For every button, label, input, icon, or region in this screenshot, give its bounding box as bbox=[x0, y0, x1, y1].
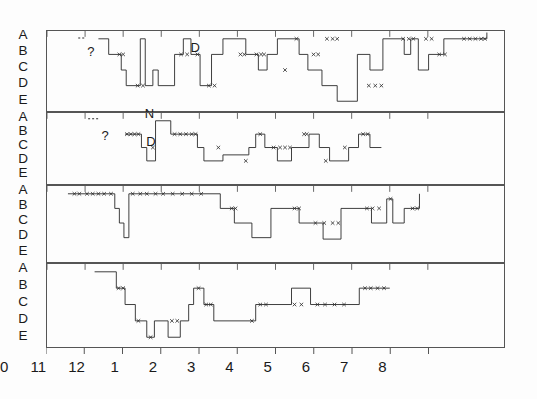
rem-marker bbox=[283, 68, 287, 72]
x-axis-tick-label: 11 bbox=[30, 358, 46, 375]
x-axis-tick-label: 6 bbox=[302, 358, 310, 375]
x-axis-tick-label: 4 bbox=[225, 358, 233, 375]
hypnogram-figure: ABCDE?NDABCDE?DABCDEABCDE10111212345678 bbox=[0, 0, 537, 399]
rem-marker bbox=[312, 53, 316, 57]
hypnogram-trace bbox=[95, 272, 390, 337]
rem-marker bbox=[239, 53, 243, 57]
y-axis-labels-panel-3: ABCDE bbox=[0, 183, 46, 257]
x-axis-tick-label: 2 bbox=[149, 358, 157, 375]
y-axis-tick-d: D bbox=[18, 76, 28, 90]
rem-marker bbox=[373, 84, 377, 88]
annotation-d: D bbox=[146, 134, 155, 149]
y-axis-tick-a: A bbox=[18, 28, 27, 42]
y-axis-tick-b: B bbox=[18, 198, 27, 212]
x-axis-tick-label: 10 bbox=[0, 358, 8, 375]
rem-marker bbox=[213, 84, 217, 88]
annotation-question: ? bbox=[87, 44, 94, 59]
x-axis-tick-label: 1 bbox=[111, 358, 119, 375]
rem-marker bbox=[377, 207, 381, 211]
y-axis-tick-a: A bbox=[18, 261, 27, 275]
y-axis-tick-c: C bbox=[18, 295, 28, 309]
rem-marker bbox=[407, 37, 411, 41]
y-axis-tick-e: E bbox=[18, 244, 27, 258]
y-axis-labels-panel-4: ABCDE bbox=[0, 261, 46, 342]
rem-marker bbox=[305, 132, 309, 136]
rem-marker bbox=[293, 303, 297, 307]
hypnogram-trace bbox=[98, 33, 486, 102]
y-axis-labels-panel-2: ABCDE bbox=[0, 110, 46, 179]
y-axis-tick-c: C bbox=[18, 138, 28, 152]
rem-marker bbox=[244, 159, 248, 163]
rem-marker bbox=[424, 37, 428, 41]
x-axis-tick-label: 7 bbox=[340, 358, 348, 375]
y-axis-tick-d: D bbox=[18, 228, 28, 242]
annotation-d: D bbox=[191, 40, 200, 55]
y-axis-tick-e: E bbox=[18, 329, 27, 343]
rem-marker bbox=[380, 84, 384, 88]
rem-marker bbox=[430, 37, 434, 41]
y-axis-tick-b: B bbox=[18, 44, 27, 58]
y-axis-tick-e: E bbox=[18, 166, 27, 180]
chart-panel-4 bbox=[46, 263, 505, 348]
y-axis-labels-panel-1: ABCDE bbox=[0, 28, 46, 106]
rem-marker bbox=[367, 84, 371, 88]
hypnogram-trace bbox=[68, 194, 420, 239]
y-axis-tick-b: B bbox=[18, 124, 27, 138]
x-axis bbox=[46, 348, 505, 358]
x-axis-tick-labels: 10111212345678 bbox=[0, 358, 537, 380]
rem-marker bbox=[217, 146, 221, 150]
rem-marker bbox=[337, 221, 341, 225]
rem-marker bbox=[324, 159, 328, 163]
chart-panel-1 bbox=[46, 30, 505, 112]
y-axis-tick-b: B bbox=[18, 278, 27, 292]
y-axis-tick-d: D bbox=[18, 152, 28, 166]
rem-marker bbox=[325, 37, 329, 41]
x-axis-tick-label: 5 bbox=[264, 358, 272, 375]
rem-marker bbox=[335, 37, 339, 41]
hypnogram-trace bbox=[125, 121, 381, 161]
rem-marker bbox=[141, 84, 145, 88]
rem-marker bbox=[300, 303, 304, 307]
x-axis-tick-label: 3 bbox=[187, 358, 195, 375]
rem-marker bbox=[185, 53, 189, 57]
rem-marker bbox=[121, 53, 125, 57]
y-axis-tick-a: A bbox=[18, 183, 27, 197]
rem-marker bbox=[343, 146, 347, 150]
y-axis-tick-c: C bbox=[18, 60, 28, 74]
y-axis-tick-e: E bbox=[18, 93, 27, 107]
rem-marker bbox=[170, 319, 174, 323]
rem-marker bbox=[331, 37, 335, 41]
y-axis-tick-c: C bbox=[18, 213, 28, 227]
y-axis-tick-d: D bbox=[18, 312, 28, 326]
annotation-question: ? bbox=[101, 128, 108, 143]
x-axis-tick-label: 12 bbox=[68, 358, 85, 375]
rem-marker bbox=[283, 146, 287, 150]
rem-marker bbox=[331, 221, 335, 225]
x-axis-tick-label: 8 bbox=[378, 358, 386, 375]
rem-marker bbox=[262, 53, 266, 57]
chart-panel-2 bbox=[46, 112, 505, 185]
rem-marker bbox=[175, 319, 179, 323]
chart-panel-3 bbox=[46, 185, 505, 263]
rem-marker bbox=[278, 146, 282, 150]
rem-marker bbox=[316, 53, 320, 57]
y-axis-tick-a: A bbox=[18, 110, 27, 124]
